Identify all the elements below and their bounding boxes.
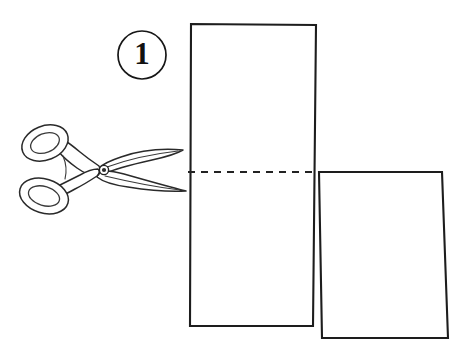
lower-blade (97, 171, 186, 191)
step-badge: 1 (118, 31, 166, 79)
step-badge-number: 1 (134, 36, 150, 71)
pivot-screw (99, 165, 108, 174)
paper-sheets-group (190, 24, 448, 338)
upper-blade (99, 149, 183, 174)
step-illustration: 1 (0, 0, 455, 351)
upper-sheet (190, 24, 316, 326)
lower-sheet (319, 172, 448, 338)
lower-handle-ring (15, 172, 73, 219)
scissors (15, 118, 186, 219)
